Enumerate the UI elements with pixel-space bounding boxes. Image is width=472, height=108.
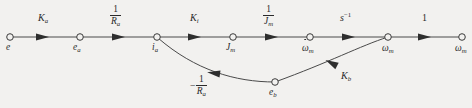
node-omega-m-out[interactable] (459, 34, 466, 41)
gain-label-unity: 1 (422, 13, 427, 23)
gain-label-Kb: Kb (341, 71, 351, 81)
node-label-e-b: eb (269, 88, 277, 98)
gain-label-neg-1-over-Ra: − 1 Ra (190, 75, 207, 97)
node-label-omega-m-out: ωm (455, 44, 467, 54)
gain-label-1-over-Jm: 1 Jm (263, 5, 274, 27)
node-e[interactable] (7, 34, 14, 41)
signal-flow-graph-figure: e ea ia Jm ωm ωm ωm eb Ka 1 Ra Ki 1 (0, 0, 472, 108)
node-omega-m-mid[interactable] (385, 34, 392, 41)
arrowhead-wm-to-out (418, 33, 431, 40)
gain-label-Ki: Ki (190, 13, 199, 23)
node-omega-dot-m[interactable] (307, 34, 314, 41)
curve-wm-to-eb (275, 37, 388, 82)
gain-label-Ka: Ka (38, 13, 48, 23)
node-e-b[interactable] (272, 79, 279, 86)
arrowhead-ea-to-ia (112, 33, 125, 40)
gain-label-1-over-Ra: 1 Ra (110, 5, 121, 27)
node-label-i-a: ia (152, 43, 158, 53)
arrowhead-ia-to-Jm (188, 33, 201, 40)
gain-label-s-inverse: s−1 (340, 13, 351, 23)
node-label-e: e (6, 43, 10, 53)
node-label-omega-dot-m: ωm (302, 44, 314, 54)
node-e-a[interactable] (77, 34, 84, 41)
node-label-e-a: ea (73, 43, 81, 53)
arrowhead-wdot-to-wm (342, 33, 355, 40)
node-i-a[interactable] (154, 34, 161, 41)
node-J-m[interactable] (230, 34, 237, 41)
arrowhead-Jm-to-wdot (265, 33, 278, 40)
node-label-omega-m-mid: ωm (382, 44, 394, 54)
arrowhead-e-to-ea (36, 33, 49, 40)
arrowhead-wm-to-eb (324, 57, 339, 69)
signal-flow-graph-canvas (0, 0, 472, 108)
feedback-arrowheads (207, 57, 339, 78)
node-label-J-m: Jm (226, 43, 235, 53)
